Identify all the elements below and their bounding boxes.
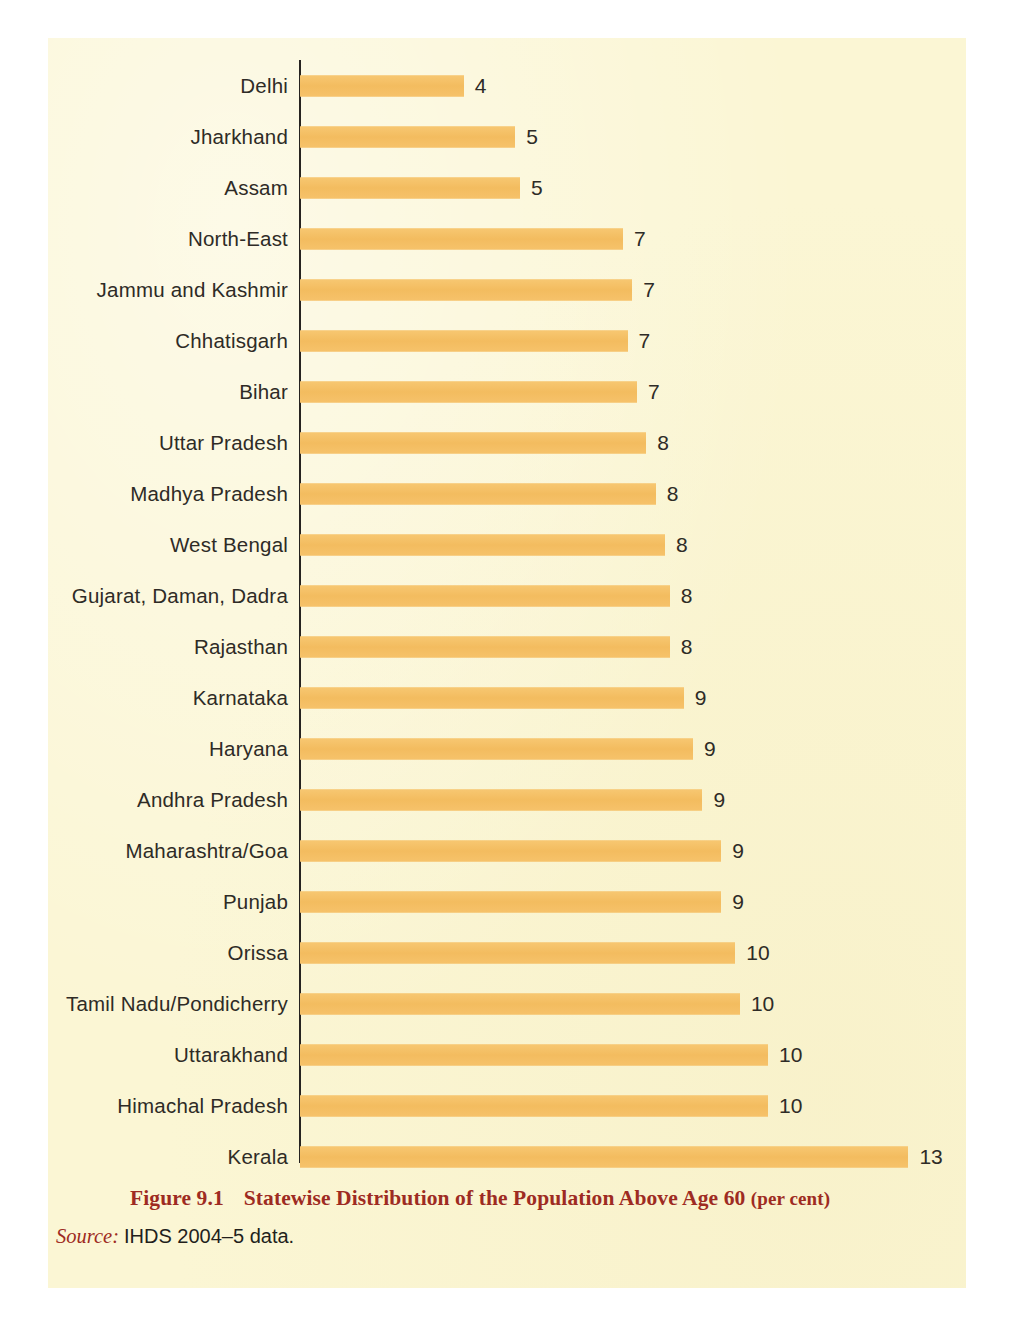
bar	[300, 228, 623, 249]
category-label: Maharashtra/Goa	[125, 839, 288, 863]
bar-row: Chhatisgarh7	[48, 315, 966, 366]
category-label: Assam	[224, 176, 288, 200]
caption-block: Figure 9.1Statewise Distribution of the …	[48, 1186, 966, 1248]
bar-value-label: 8	[681, 635, 693, 659]
bar-row: Assam5	[48, 162, 966, 213]
bar-row: Karnataka9	[48, 672, 966, 723]
bar-value-label: 7	[648, 380, 660, 404]
bar-value-label: 5	[526, 125, 538, 149]
source-value: IHDS 2004–5 data.	[124, 1225, 294, 1247]
category-label: Uttar Pradesh	[159, 431, 288, 455]
figure-caption: Figure 9.1Statewise Distribution of the …	[48, 1186, 966, 1211]
bar-row: Himachal Pradesh10	[48, 1080, 966, 1131]
bar	[300, 1095, 768, 1116]
bar-row: Uttar Pradesh8	[48, 417, 966, 468]
bar-value-label: 5	[531, 176, 543, 200]
bar-value-label: 8	[676, 533, 688, 557]
category-label: Delhi	[240, 74, 288, 98]
figure-panel: Delhi4Jharkhand5Assam5North-East7Jammu a…	[48, 38, 966, 1288]
bar-value-label: 10	[746, 941, 769, 965]
bar-row: Jammu and Kashmir7	[48, 264, 966, 315]
bar-value-label: 9	[695, 686, 707, 710]
bar	[300, 942, 735, 963]
bar-value-label: 10	[751, 992, 774, 1016]
bar-row: Delhi4	[48, 60, 966, 111]
category-label: Haryana	[209, 737, 288, 761]
bar	[300, 687, 684, 708]
bar-row: Haryana9	[48, 723, 966, 774]
bar-value-label: 7	[643, 278, 655, 302]
bar-row: Jharkhand5	[48, 111, 966, 162]
bar	[300, 279, 632, 300]
bar	[300, 432, 646, 453]
bar-chart: Delhi4Jharkhand5Assam5North-East7Jammu a…	[48, 38, 966, 1173]
bar-value-label: 8	[667, 482, 679, 506]
category-label: Punjab	[223, 890, 288, 914]
page: Delhi4Jharkhand5Assam5North-East7Jammu a…	[0, 0, 1016, 1329]
bar	[300, 483, 656, 504]
bar-row: Madhya Pradesh8	[48, 468, 966, 519]
bar-row: Uttarakhand10	[48, 1029, 966, 1080]
bar	[300, 75, 464, 96]
source-line: Source:IHDS 2004–5 data.	[48, 1225, 966, 1248]
category-label: Uttarakhand	[174, 1043, 288, 1067]
bar	[300, 381, 637, 402]
bar-row: Punjab9	[48, 876, 966, 927]
category-label: Jharkhand	[190, 125, 288, 149]
category-label: Rajasthan	[194, 635, 288, 659]
bar-value-label: 9	[732, 839, 744, 863]
bar-value-label: 8	[681, 584, 693, 608]
bar	[300, 585, 670, 606]
bar	[300, 891, 721, 912]
category-label: West Bengal	[170, 533, 288, 557]
category-label: Kerala	[228, 1145, 288, 1169]
bar-row: Orissa10	[48, 927, 966, 978]
category-label: Tamil Nadu/Pondicherry	[66, 992, 288, 1016]
category-label: Karnataka	[193, 686, 288, 710]
bar	[300, 840, 721, 861]
bar	[300, 789, 702, 810]
bar	[300, 993, 740, 1014]
category-label: Andhra Pradesh	[137, 788, 288, 812]
bar	[300, 636, 670, 657]
bar-value-label: 9	[704, 737, 716, 761]
source-label: Source:	[56, 1225, 119, 1247]
bar-row: Gujarat, Daman, Dadra8	[48, 570, 966, 621]
bar-value-label: 8	[657, 431, 669, 455]
category-label: Chhatisgarh	[175, 329, 288, 353]
bar-row: Kerala13	[48, 1131, 966, 1182]
bar	[300, 330, 628, 351]
bar-row: Andhra Pradesh9	[48, 774, 966, 825]
bar-value-label: 10	[779, 1094, 802, 1118]
bar-value-label: 7	[639, 329, 651, 353]
category-label: Madhya Pradesh	[130, 482, 288, 506]
category-label: Himachal Pradesh	[117, 1094, 288, 1118]
bar-row: North-East7	[48, 213, 966, 264]
bar	[300, 534, 665, 555]
bar-value-label: 4	[475, 74, 487, 98]
figure-unit: (per cent)	[751, 1188, 830, 1209]
bar-value-label: 9	[713, 788, 725, 812]
category-label: North-East	[188, 227, 288, 251]
bar	[300, 1044, 768, 1065]
bar-row: West Bengal8	[48, 519, 966, 570]
bar-row: Bihar7	[48, 366, 966, 417]
bar-value-label: 7	[634, 227, 646, 251]
bar-row: Rajasthan8	[48, 621, 966, 672]
bar	[300, 177, 520, 198]
bar	[300, 126, 515, 147]
bar-value-label: 9	[732, 890, 744, 914]
figure-title: Statewise Distribution of the Population…	[244, 1186, 746, 1210]
category-label: Orissa	[228, 941, 288, 965]
category-label: Jammu and Kashmir	[97, 278, 288, 302]
figure-number: Figure 9.1	[130, 1186, 224, 1210]
bar	[300, 738, 693, 759]
bar	[300, 1146, 908, 1167]
bar-value-label: 13	[919, 1145, 942, 1169]
category-label: Bihar	[239, 380, 288, 404]
category-label: Gujarat, Daman, Dadra	[72, 584, 288, 608]
bar-row: Tamil Nadu/Pondicherry10	[48, 978, 966, 1029]
bar-value-label: 10	[779, 1043, 802, 1067]
bar-row: Maharashtra/Goa9	[48, 825, 966, 876]
